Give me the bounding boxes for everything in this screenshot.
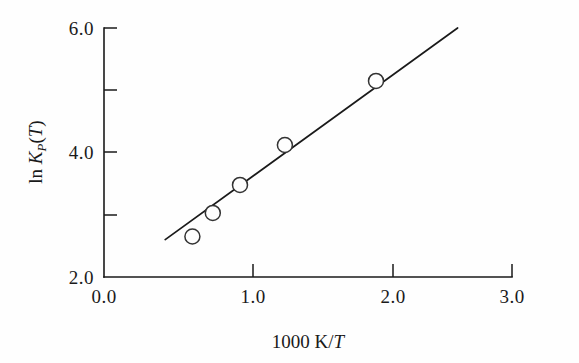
x-tick-label-2: 2.0	[380, 286, 405, 307]
x-tick-label-1: 1.0	[240, 286, 265, 307]
chart-page: 6.0 4.0 2.0 0.0 1.0 2.0 3.0 1000 K/T ln …	[0, 0, 579, 363]
y-tick-label-4: 4.0	[69, 142, 94, 163]
data-point	[233, 177, 248, 192]
y-axis-title-subscript: P	[34, 143, 49, 152]
x-axis-title-prefix: 1000 K/	[272, 331, 334, 352]
x-tick-label-3: 3.0	[499, 286, 524, 307]
data-point	[277, 138, 292, 153]
y-axis-title-ln: ln	[25, 168, 46, 183]
data-point	[369, 73, 384, 88]
x-axis-title-variable: T	[334, 331, 346, 352]
scatter-plot: 6.0 4.0 2.0 0.0 1.0 2.0 3.0 1000 K/T ln …	[0, 0, 579, 363]
data-point	[185, 229, 200, 244]
data-point	[205, 205, 220, 220]
y-tick-label-6: 6.0	[69, 18, 94, 39]
y-tick-label-2: 2.0	[69, 267, 94, 288]
x-tick-label-0: 0.0	[91, 286, 116, 307]
y-axis-title: ln KP(T)	[25, 120, 49, 183]
x-axis-title: 1000 K/T	[272, 331, 346, 352]
y-axis-title-close-paren: )	[25, 120, 47, 126]
